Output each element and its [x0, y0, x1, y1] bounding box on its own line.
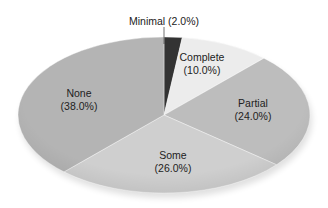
- label-partial-pct: (24.0%): [235, 110, 272, 122]
- label-minimal: Minimal (2.0%): [129, 15, 199, 27]
- label-partial-name: Partial: [238, 97, 268, 109]
- label-some-name: Some: [159, 149, 187, 161]
- label-some-pct: (26.0%): [155, 162, 192, 174]
- label-none-name: None: [66, 87, 91, 99]
- pie-chart: Minimal (2.0%) Complete (10.0%) Partial …: [0, 0, 328, 208]
- label-none-pct: (38.0%): [61, 100, 98, 112]
- label-complete-name: Complete: [180, 51, 225, 63]
- label-complete-pct: (10.0%): [184, 64, 221, 76]
